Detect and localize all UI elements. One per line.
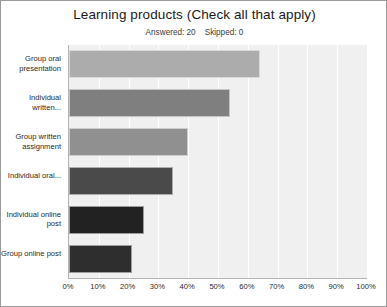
category-label: Individual oral... [0,171,61,181]
x-tick-label: 10% [90,282,105,291]
x-tick-label: 0% [63,282,74,291]
chart-response-summary: Answered: 20Skipped: 0 [1,28,387,37]
x-tick-label: 100% [356,282,375,291]
answered-count: Answered: 20 [146,28,196,37]
bar-row [69,206,367,234]
plot-area [68,45,367,278]
bar-row [69,89,367,117]
gridline [218,45,219,278]
gridline [337,45,338,278]
gridline [278,45,279,278]
x-axis-line [68,278,367,279]
bar[interactable] [69,245,132,273]
bar[interactable] [69,206,144,234]
bar-row [69,50,367,78]
gridline [188,45,189,278]
x-tick-label: 20% [120,282,135,291]
category-label: Group written assignment [0,132,61,151]
x-tick-label: 60% [239,282,254,291]
bar-row [69,128,367,156]
bar-row [69,167,367,195]
chart-title: Learning products (Check all that apply) [1,7,387,22]
gridline [367,45,368,278]
chart-card: Learning products (Check all that apply)… [0,0,387,307]
category-label: Individual online post [0,210,61,229]
bar[interactable] [69,50,260,78]
bar[interactable] [69,89,230,117]
x-tick-label: 40% [180,282,195,291]
category-label: Group oral presentation [0,54,61,73]
x-tick-label: 80% [299,282,314,291]
category-label: Individual written... [0,93,61,112]
skipped-count: Skipped: 0 [205,28,244,37]
x-tick-label: 70% [269,282,284,291]
x-tick-label: 90% [329,282,344,291]
x-tick-label: 50% [209,282,224,291]
category-label: Group online post [0,249,61,259]
bar[interactable] [69,128,188,156]
gridline [158,45,159,278]
bar[interactable] [69,167,173,195]
x-tick-label: 30% [150,282,165,291]
gridline [129,45,130,278]
gridline [307,45,308,278]
gridline [99,45,100,278]
bar-row [69,245,367,273]
gridline [248,45,249,278]
